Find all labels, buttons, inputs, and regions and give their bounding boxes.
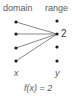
mapping-line <box>16 22 57 34</box>
range-value-label: 2 <box>61 29 67 39</box>
domain-dot <box>14 32 17 35</box>
range-axis-label: y <box>55 68 60 78</box>
range-dot <box>55 19 58 22</box>
function-caption: f(x) = 2 <box>24 83 52 93</box>
mapping-graphic <box>0 0 72 96</box>
range-dot <box>55 32 58 35</box>
domain-dot <box>14 46 17 49</box>
range-dot <box>55 59 58 62</box>
range-dot <box>55 45 58 48</box>
domain-dot <box>14 59 17 62</box>
domain-dot <box>14 20 17 23</box>
mapping-line <box>16 34 57 48</box>
mapping-line <box>16 34 57 61</box>
domain-points <box>14 20 17 62</box>
mapping-arrows <box>16 22 57 61</box>
domain-axis-label: x <box>14 68 19 78</box>
range-points <box>55 19 58 62</box>
